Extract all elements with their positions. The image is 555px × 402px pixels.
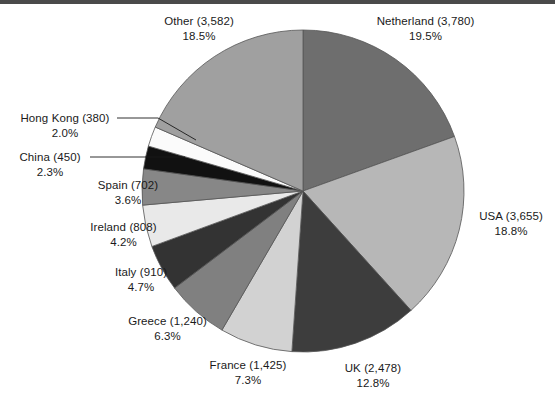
slice-label-greece-name: Greece (1,240)	[111, 314, 224, 329]
slice-label-france: France (1,425) 7.3%	[193, 358, 303, 387]
slice-label-other-name: Other (3,582)	[139, 14, 259, 29]
slice-label-netherland: Netherland (3,780) 19.5%	[358, 14, 493, 43]
slice-label-italy: Italy (910) 4.7%	[97, 265, 185, 294]
slice-label-china: China (450) 2.3%	[8, 150, 92, 179]
slice-label-hong-kong-percent: 2.0%	[10, 126, 120, 141]
slice-label-china-name: China (450)	[8, 150, 92, 165]
slice-label-usa-percent: 18.8%	[468, 224, 554, 239]
slice-label-greece: Greece (1,240) 6.3%	[111, 314, 224, 343]
pie-chart-figure: Other (3,582) 18.5% Netherland (3,780) 1…	[0, 0, 555, 402]
slice-label-spain: Spain (702) 3.6%	[81, 178, 175, 207]
slice-label-hong-kong-name: Hong Kong (380)	[10, 111, 120, 126]
slice-label-ireland: Ireland (808) 4.2%	[72, 220, 175, 249]
slice-label-other: Other (3,582) 18.5%	[139, 14, 259, 43]
slice-label-netherland-name: Netherland (3,780)	[358, 14, 493, 29]
slice-label-greece-percent: 6.3%	[111, 329, 224, 344]
slice-label-china-percent: 2.3%	[8, 165, 92, 180]
slice-label-hong-kong: Hong Kong (380) 2.0%	[10, 111, 120, 140]
slice-label-uk-name: UK (2,478)	[327, 361, 419, 376]
slice-label-uk: UK (2,478) 12.8%	[327, 361, 419, 390]
slice-label-france-name: France (1,425)	[193, 358, 303, 373]
slice-label-uk-percent: 12.8%	[327, 376, 419, 391]
slice-label-other-percent: 18.5%	[139, 29, 259, 44]
slice-label-spain-name: Spain (702)	[81, 178, 175, 193]
pie-slices	[142, 30, 464, 352]
slice-label-france-percent: 7.3%	[193, 373, 303, 388]
slice-label-usa: USA (3,655) 18.8%	[468, 209, 554, 238]
slice-label-italy-percent: 4.7%	[97, 280, 185, 295]
slice-label-netherland-percent: 19.5%	[358, 29, 493, 44]
slice-label-italy-name: Italy (910)	[97, 265, 185, 280]
slice-label-spain-percent: 3.6%	[81, 193, 175, 208]
slice-label-ireland-percent: 4.2%	[72, 235, 175, 250]
slice-label-usa-name: USA (3,655)	[468, 209, 554, 224]
slice-label-ireland-name: Ireland (808)	[72, 220, 175, 235]
